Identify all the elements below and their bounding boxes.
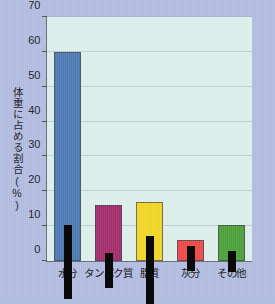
bar-series: 水分タンパク質脂質灰分その他 (47, 17, 252, 261)
error-bar (146, 236, 154, 304)
y-axis-tick-label: 0 (34, 243, 40, 255)
bar-group: その他 (211, 17, 252, 261)
bar[interactable]: タンパク質 (95, 205, 122, 261)
bar-group: 灰分 (170, 17, 211, 261)
y-axis-tick-label: 60 (28, 34, 40, 46)
bar-group: 水分 (47, 17, 88, 261)
bar-group: 脂質 (129, 17, 170, 261)
y-axis-tick-label: 50 (28, 69, 40, 81)
error-bar (64, 225, 72, 299)
bar-group: タンパク質 (88, 17, 129, 261)
error-bar (187, 246, 195, 271)
bar[interactable]: 灰分 (177, 240, 204, 261)
y-axis-tick-label: 70 (28, 0, 40, 11)
y-axis-tick-label: 20 (28, 173, 40, 185)
y-axis-tick-label: 10 (28, 208, 40, 220)
y-axis-label: 体重に占める割合(%) (6, 87, 22, 211)
y-axis-tick-label: 30 (28, 138, 40, 150)
bar[interactable]: その他 (218, 225, 245, 261)
bar[interactable]: 脂質 (136, 202, 163, 261)
bar[interactable]: 水分 (54, 52, 81, 261)
error-bar (228, 251, 236, 272)
y-axis-tick-label: 40 (28, 104, 40, 116)
error-bar (105, 253, 113, 288)
plot-area: 010203040506070 水分タンパク質脂質灰分その他 (46, 17, 252, 262)
